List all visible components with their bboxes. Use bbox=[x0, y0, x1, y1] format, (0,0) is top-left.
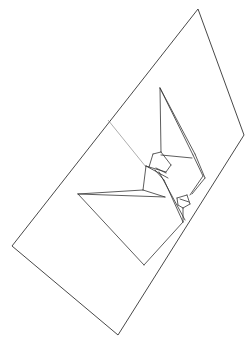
background bbox=[0, 0, 250, 348]
origami-crane-diagram bbox=[0, 0, 250, 348]
